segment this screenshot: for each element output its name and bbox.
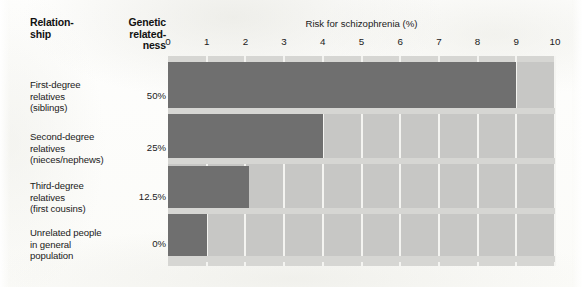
x-tick-label-6: 6: [397, 36, 402, 47]
row-separator-2: [168, 208, 555, 214]
x-tick-label-1: 1: [204, 36, 209, 47]
row-value-third-degree: 12.5%: [118, 191, 166, 203]
figure-page: Relation- ship Genetic related- ness Fir…: [0, 0, 582, 287]
row-label-line3: (siblings): [30, 102, 67, 113]
x-tick-label-3: 3: [281, 36, 286, 47]
x-axis-title: Risk for schizophrenia (%): [168, 18, 555, 29]
row-label-line2: relatives: [30, 91, 65, 102]
bar-3: [168, 214, 207, 256]
row-label-line3: (nieces/nephews): [30, 154, 104, 165]
paper-edge-right: [572, 0, 582, 287]
row-separator-1: [168, 158, 555, 164]
row-label-line2: relatives: [30, 192, 65, 203]
column-header-genetic-relatedness: Genetic related- ness: [118, 17, 166, 52]
row-value-unrelated: 0%: [118, 238, 166, 250]
column-header-relationship: Relation- ship: [30, 17, 120, 40]
row-label-line1: Second-degree: [30, 131, 94, 142]
row-separator-3: [168, 256, 555, 262]
row-label-line3: (first cousins): [30, 203, 86, 214]
column-header-genetic-line3: ness: [143, 39, 166, 51]
column-header-relationship-line1: Relation-: [30, 16, 74, 28]
x-tick-label-7: 7: [436, 36, 441, 47]
column-header-genetic-line1: Genetic: [129, 16, 166, 28]
row-label-second-degree: Second-degree relatives (nieces/nephews): [30, 131, 126, 166]
row-label-line3: population: [30, 250, 73, 261]
row-label-line1: Unrelated people: [30, 227, 101, 238]
x-tick-label-8: 8: [475, 36, 480, 47]
row-label-first-degree: First-degree relatives (siblings): [30, 79, 126, 114]
row-label-line2: relatives: [30, 143, 65, 154]
x-tick-label-0: 0: [165, 36, 170, 47]
row-label-line2: in general: [30, 239, 71, 250]
x-tick-label-9: 9: [514, 36, 519, 47]
row-value-first-degree: 50%: [118, 90, 166, 102]
x-axis-tick-labels: 012345678910: [168, 36, 555, 50]
row-label-unrelated: Unrelated people in general population: [30, 227, 126, 262]
row-value-second-degree: 25%: [118, 142, 166, 154]
bar-1: [168, 114, 323, 158]
x-tick-label-2: 2: [243, 36, 248, 47]
column-header-genetic-line2: related-: [129, 28, 166, 40]
x-tick-label-4: 4: [320, 36, 325, 47]
row-label-third-degree: Third-degree relatives (first cousins): [30, 180, 126, 215]
bar-2: [168, 166, 249, 208]
paper-edge-left: [0, 0, 10, 287]
plot-area: [168, 56, 555, 266]
row-label-line1: First-degree: [30, 79, 81, 90]
x-tick-label-10: 10: [550, 36, 561, 47]
x-tick-label-5: 5: [359, 36, 364, 47]
bar-0: [168, 62, 516, 108]
column-header-relationship-line2: ship: [30, 28, 51, 40]
row-label-line1: Third-degree: [30, 180, 84, 191]
